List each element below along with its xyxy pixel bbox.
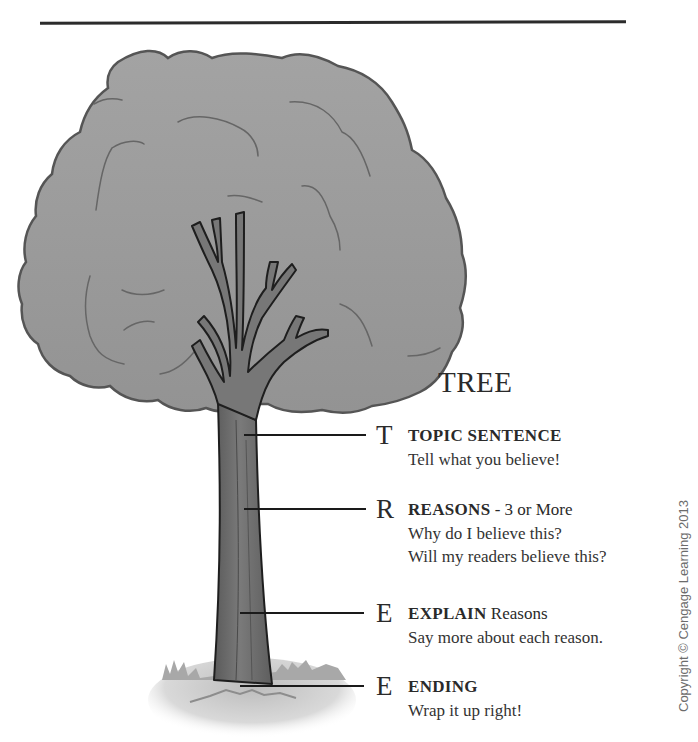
entry-heading-keyword: EXPLAIN [408, 604, 487, 623]
copyright-notice: Copyright © Cengage Learning 2013 [676, 500, 691, 712]
entry-heading-keyword: REASONS [408, 500, 490, 519]
acronym-letter: E [376, 598, 393, 629]
acronym-letter: R [376, 494, 394, 525]
entry-heading: REASONS - 3 or More [408, 500, 573, 520]
acronym-letter: T [376, 420, 393, 451]
entry-line: Tell what you believe! [408, 450, 560, 470]
acronym-letter: E [376, 671, 393, 702]
entry-heading: ENDING [408, 677, 478, 697]
entry-heading: TOPIC SENTENCE [408, 426, 562, 446]
entry-line: Will my readers believe this? [408, 547, 607, 567]
entry-heading-rest: Reasons [487, 604, 548, 623]
entry-heading-rest: - 3 or More [490, 500, 572, 519]
entry-line: Wrap it up right! [408, 701, 522, 721]
entry-line: Why do I believe this? [408, 524, 562, 544]
entry-heading-keyword: ENDING [408, 677, 478, 696]
entry-line: Say more about each reason. [408, 628, 603, 648]
entry-heading: EXPLAIN Reasons [408, 604, 548, 624]
diagram-title: TREE [438, 366, 513, 399]
entry-heading-keyword: TOPIC SENTENCE [408, 426, 562, 445]
